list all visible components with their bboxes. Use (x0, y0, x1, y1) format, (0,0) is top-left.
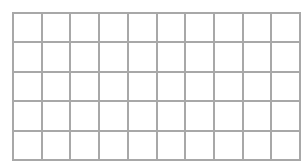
grid-cell (244, 73, 273, 102)
grid-cell (129, 14, 158, 43)
grid-cell (71, 132, 100, 161)
grid-cell (71, 14, 100, 43)
grid-cell (71, 102, 100, 131)
grid-cell (244, 132, 273, 161)
grid-cell (272, 73, 301, 102)
grid-cell (186, 102, 215, 131)
grid-cell (43, 102, 72, 131)
grid-cell (14, 132, 43, 161)
grid-cell (129, 132, 158, 161)
grid-cell (14, 14, 43, 43)
grid-cell (43, 14, 72, 43)
grid-cell (272, 102, 301, 131)
grid-cell (14, 73, 43, 102)
grid-cell (158, 102, 187, 131)
grid-cell (272, 14, 301, 43)
grid-cell (100, 14, 129, 43)
grid-cell (272, 132, 301, 161)
grid-cell (215, 102, 244, 131)
grid-cell (43, 73, 72, 102)
grid-cell (186, 14, 215, 43)
grid-cell (14, 43, 43, 72)
grid-cell (129, 43, 158, 72)
grid-cell (100, 43, 129, 72)
grid-cell (215, 132, 244, 161)
grid-cell (158, 14, 187, 43)
grid-cell (71, 43, 100, 72)
grid-cell (129, 102, 158, 131)
grid-cell (129, 73, 158, 102)
grid-cell (158, 73, 187, 102)
grid-cell (215, 73, 244, 102)
grid-cell (244, 43, 273, 72)
grid-cell (186, 132, 215, 161)
grid-cell (186, 73, 215, 102)
empty-grid (12, 12, 301, 161)
grid-cell (43, 43, 72, 72)
grid-cell (71, 73, 100, 102)
grid-cell (14, 102, 43, 131)
grid-cell (43, 132, 72, 161)
grid-cell (244, 102, 273, 131)
grid-cell (244, 14, 273, 43)
grid-cell (158, 43, 187, 72)
grid-cell (272, 43, 301, 72)
grid-cell (100, 132, 129, 161)
grid-cell (100, 73, 129, 102)
grid-cell (215, 43, 244, 72)
grid-cell (215, 14, 244, 43)
grid-cell (186, 43, 215, 72)
grid-cell (158, 132, 187, 161)
grid-cell (100, 102, 129, 131)
